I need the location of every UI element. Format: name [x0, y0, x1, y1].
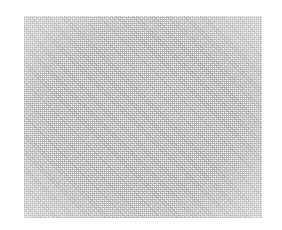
image-canvas: [0, 0, 282, 230]
noise-texture: [24, 16, 262, 218]
